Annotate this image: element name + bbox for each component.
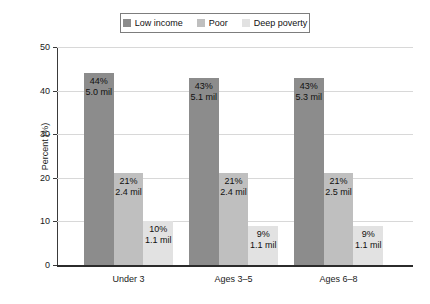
legend-label-poor: Poor xyxy=(209,19,228,28)
bar-count-label: 2.5 mil xyxy=(324,187,354,198)
x-axis-line xyxy=(57,265,413,267)
y-axis-tick xyxy=(53,91,57,92)
legend-item-poor: Poor xyxy=(197,19,228,28)
y-axis-tick-label: 20 xyxy=(10,174,50,183)
y-axis-tick-label: 10 xyxy=(10,217,50,226)
bar-count-label: 1.1 mil xyxy=(248,240,278,251)
bar-value-label: 9%1.1 mil xyxy=(248,229,278,251)
bar-percent-label: 10% xyxy=(143,224,173,235)
bar: 9%1.1 mil xyxy=(353,226,383,265)
y-axis-tick xyxy=(53,134,57,135)
chart-legend: Low income Poor Deep poverty xyxy=(120,13,310,33)
y-axis-tick xyxy=(53,47,57,48)
bar-value-label: 43%5.1 mil xyxy=(189,81,219,103)
bar-percent-label: 21% xyxy=(324,176,354,187)
bar-count-label: 1.1 mil xyxy=(353,240,383,251)
plot-area: 01020304050 Percent (%) 44%5.0 mil21%2.4… xyxy=(57,47,413,266)
bar: 10%1.1 mil xyxy=(143,221,173,265)
y-axis-tick-label: 0 xyxy=(10,261,50,270)
bar-count-label: 2.4 mil xyxy=(219,187,249,198)
bar-chart: Low income Poor Deep poverty 01020304050… xyxy=(0,0,430,304)
bar-count-label: 1.1 mil xyxy=(143,235,173,246)
x-axis-tick-label: Ages 6–8 xyxy=(274,275,403,284)
bar-value-label: 21%2.5 mil xyxy=(324,176,354,198)
bar-percent-label: 43% xyxy=(294,81,324,92)
legend-label-low-income: Low income xyxy=(135,19,183,28)
bar: 43%5.3 mil xyxy=(294,78,324,265)
bar-count-label: 2.4 mil xyxy=(114,187,144,198)
legend-item-low-income: Low income xyxy=(123,19,183,28)
bar: 21%2.4 mil xyxy=(114,173,144,265)
bar-percent-label: 9% xyxy=(353,229,383,240)
bar-count-label: 5.1 mil xyxy=(189,92,219,103)
y-axis-tick-label: 50 xyxy=(10,43,50,52)
bar-value-label: 21%2.4 mil xyxy=(219,176,249,198)
legend-swatch-icon-poor xyxy=(197,19,205,27)
bar-percent-label: 9% xyxy=(248,229,278,240)
bar-value-label: 9%1.1 mil xyxy=(353,229,383,251)
y-axis-tick xyxy=(53,221,57,222)
y-axis-tick-label: 40 xyxy=(10,87,50,96)
bar-percent-label: 43% xyxy=(189,81,219,92)
gridline xyxy=(57,47,413,48)
legend-item-deep-poverty: Deep poverty xyxy=(242,19,308,28)
y-axis-title: Percent (%) xyxy=(41,123,50,171)
bar-value-label: 43%5.3 mil xyxy=(294,81,324,103)
y-axis-tick xyxy=(53,178,57,179)
bar-count-label: 5.0 mil xyxy=(84,87,114,98)
bar: 21%2.5 mil xyxy=(324,173,354,265)
bar-percent-label: 44% xyxy=(84,76,114,87)
bar-count-label: 5.3 mil xyxy=(294,92,324,103)
bar: 43%5.1 mil xyxy=(189,78,219,265)
bar: 21%2.4 mil xyxy=(219,173,249,265)
bar-value-label: 10%1.1 mil xyxy=(143,224,173,246)
bar: 9%1.1 mil xyxy=(248,226,278,265)
legend-swatch-icon-deep-poverty xyxy=(242,19,250,27)
legend-swatch-icon-low-income xyxy=(123,19,131,27)
bar-value-label: 21%2.4 mil xyxy=(114,176,144,198)
bar: 44%5.0 mil xyxy=(84,73,114,265)
legend-label-deep-poverty: Deep poverty xyxy=(254,19,308,28)
bar-percent-label: 21% xyxy=(219,176,249,187)
bar-value-label: 44%5.0 mil xyxy=(84,76,114,98)
y-axis-line xyxy=(57,47,58,266)
bar-percent-label: 21% xyxy=(114,176,144,187)
y-axis-tick xyxy=(53,265,57,266)
